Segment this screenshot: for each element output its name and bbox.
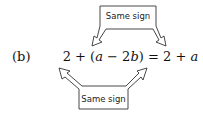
eq-equals: =	[144, 49, 163, 64]
eq-rhs-plus: +	[171, 49, 190, 64]
eq-lhs-minus-2: − 2	[103, 49, 130, 64]
eq-lhs-2: 2	[63, 49, 71, 64]
eq-rhs-a: a	[190, 49, 198, 64]
eq-rhs-minus-2: − 2	[198, 49, 203, 64]
top-callout: Same sign	[92, 6, 166, 46]
sign-rule-diagram: Same sign (b) 2 + (a − 2b) = 2 + a − 2b …	[0, 0, 203, 120]
part-label: (b)	[12, 49, 30, 64]
eq-rhs-2: 2	[163, 49, 171, 64]
eq-lhs-plus-paren: + (	[71, 49, 95, 64]
bottom-callout: Same sign	[59, 68, 147, 109]
eq-lhs-b: b	[130, 49, 138, 64]
equation: 2 + (a − 2b) = 2 + a − 2b	[42, 49, 203, 64]
top-callout-label: Same sign	[106, 11, 150, 21]
bottom-callout-label: Same sign	[81, 94, 125, 104]
eq-lhs-a: a	[95, 49, 103, 64]
